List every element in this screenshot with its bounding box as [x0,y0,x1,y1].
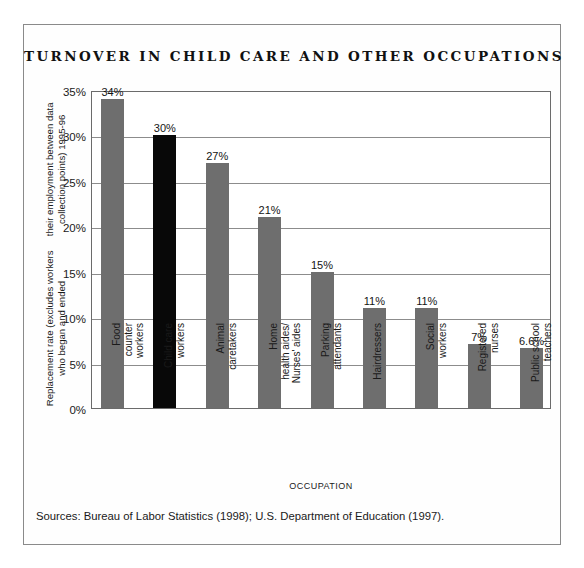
y-axis-tick-label: 30% [63,131,86,143]
x-axis-category-label-text: Animal caretakers [215,323,238,413]
y-axis-tick-label: 35% [63,86,86,98]
bar-value-label: 15% [311,259,333,271]
bar-value-label: 11% [364,295,385,307]
x-axis-category-label-text: Home health aides/ Nurses' aides [268,323,303,413]
bar-value-label: 27% [206,150,228,162]
sources-note: Sources: Bureau of Labor Statistics (199… [36,510,444,522]
x-axis-category-label-text: Hairdressers [372,323,384,413]
x-axis-category-label-text: Parking attendants [320,323,343,413]
x-axis-category-label-text: Registered nurses [477,323,500,413]
y-axis-tick-label: 20% [63,222,86,234]
bar-value-label: 21% [259,204,281,216]
chart-title: TURNOVER IN CHILD CARE AND OTHER OCCUPAT… [24,48,560,64]
y-axis-tick-label: 25% [63,177,86,189]
x-axis-category-label-text: Social workers [425,323,448,413]
bar-value-label: 11% [416,295,437,307]
x-axis-category-label-text: Food counter workers [111,323,146,413]
y-axis-tick-label: 0% [69,404,86,416]
bar-value-label: 34% [101,86,123,98]
x-axis-title: OCCUPATION [91,481,551,491]
bar-value-label: 30% [154,122,176,134]
y-axis-tick-label: 5% [69,359,86,371]
figure-border: TURNOVER IN CHILD CARE AND OTHER OCCUPAT… [23,24,561,545]
x-axis-category-label-text: Child care workers [163,323,186,413]
y-axis-tick-label: 10% [63,313,86,325]
x-axis-category-label-text: Public school teachers [530,323,553,413]
y-axis-tick-label: 15% [63,268,86,280]
